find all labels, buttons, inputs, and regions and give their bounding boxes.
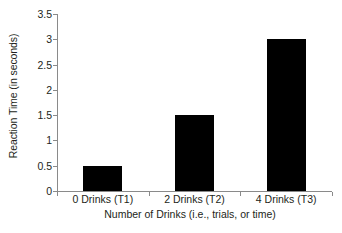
plot-area — [57, 14, 332, 191]
x-axis-tick — [332, 192, 333, 196]
y-axis-tick-label: 0 — [22, 186, 52, 196]
y-axis-tick — [53, 14, 57, 15]
y-axis-title: Reaction Time (in seconds) — [4, 0, 22, 192]
y-axis-tick — [53, 166, 57, 167]
y-axis-tick-label: 1 — [22, 135, 52, 145]
y-axis-tick — [53, 65, 57, 66]
x-axis-line — [57, 191, 332, 192]
x-axis-tick-labels: 0 Drinks (T1)2 Drinks (T2)4 Drinks (T3) — [57, 193, 332, 207]
x-axis-tick-label: 0 Drinks (T1) — [57, 193, 149, 206]
y-axis-tick-label: 2.5 — [22, 60, 52, 70]
bar — [175, 115, 214, 191]
bar-chart-figure: Reaction Time (in seconds) 00.511.522.53… — [0, 0, 342, 233]
y-axis-line — [57, 14, 58, 192]
y-axis-tick-label: 3.5 — [22, 9, 52, 19]
x-axis-tick-label: 2 Drinks (T2) — [149, 193, 241, 206]
y-axis-tick — [53, 115, 57, 116]
y-axis-tick-label: 1.5 — [22, 110, 52, 120]
y-axis-tick-labels: 00.511.522.533.5 — [22, 0, 52, 233]
y-axis-tick — [53, 39, 57, 40]
y-axis-tick — [53, 140, 57, 141]
y-axis-tick-label: 3 — [22, 34, 52, 44]
y-axis-tick-label: 0.5 — [22, 161, 52, 171]
x-axis-title: Number of Drinks (i.e., trials, or time) — [45, 208, 335, 221]
bar — [83, 166, 122, 191]
y-axis-tick — [53, 90, 57, 91]
y-axis-tick-label: 2 — [22, 85, 52, 95]
x-axis-tick-label: 4 Drinks (T3) — [240, 193, 332, 206]
bar — [267, 39, 306, 191]
